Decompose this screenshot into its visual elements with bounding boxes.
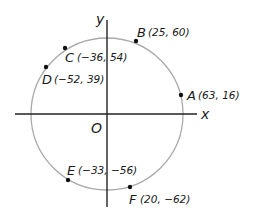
- point-b-coords: (25, 60): [148, 26, 190, 38]
- point-a-name: A: [186, 88, 196, 103]
- point-f-name: F: [129, 192, 137, 207]
- point-a: A (63, 16): [179, 88, 240, 103]
- origin-label: O: [91, 120, 102, 136]
- point-f: F (20, −62): [128, 185, 191, 207]
- point-b: B (25, 60): [134, 25, 190, 43]
- point-d: D (−52, 39): [42, 65, 104, 87]
- point-a-coords: (63, 16): [198, 89, 240, 101]
- point-e-dot: [66, 178, 70, 182]
- y-axis-label: y: [95, 11, 105, 27]
- point-e: E (−33, −56): [66, 163, 137, 182]
- point-c: C (−36, 54): [63, 46, 128, 65]
- coordinate-diagram: x y O A (63, 16) B (25, 60) C (−36, 54) …: [0, 0, 255, 219]
- point-f-coords: (20, −62): [140, 193, 190, 205]
- point-d-name: D: [42, 72, 52, 87]
- point-e-name: E: [67, 163, 76, 178]
- x-axis-label: x: [200, 106, 210, 122]
- point-c-name: C: [65, 50, 75, 65]
- point-d-dot: [44, 65, 48, 69]
- point-b-name: B: [137, 25, 146, 40]
- point-f-dot: [128, 185, 132, 189]
- point-c-coords: (−36, 54): [77, 51, 127, 63]
- point-d-coords: (−52, 39): [54, 73, 104, 85]
- point-e-coords: (−33, −56): [78, 164, 137, 176]
- point-a-dot: [179, 93, 183, 97]
